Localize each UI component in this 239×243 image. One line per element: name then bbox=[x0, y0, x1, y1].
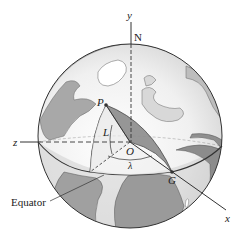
latitude-label: L bbox=[102, 126, 109, 138]
equator-label: Equator bbox=[11, 196, 46, 208]
origin-label: O bbox=[126, 145, 134, 157]
y-axis-label: y bbox=[126, 9, 132, 21]
point-g-label: G bbox=[168, 174, 176, 186]
longitude-label: λ bbox=[127, 160, 133, 171]
madagascar-landmass bbox=[185, 199, 188, 207]
globe-diagram: y N z x P O G L λ Equator bbox=[0, 0, 239, 243]
x-axis-label: x bbox=[224, 212, 230, 224]
point-p-label: P bbox=[96, 96, 104, 108]
z-axis-label: z bbox=[12, 136, 18, 148]
south-america-landmass bbox=[54, 172, 103, 228]
north-label: N bbox=[134, 31, 142, 43]
point-p-marker bbox=[104, 103, 108, 107]
